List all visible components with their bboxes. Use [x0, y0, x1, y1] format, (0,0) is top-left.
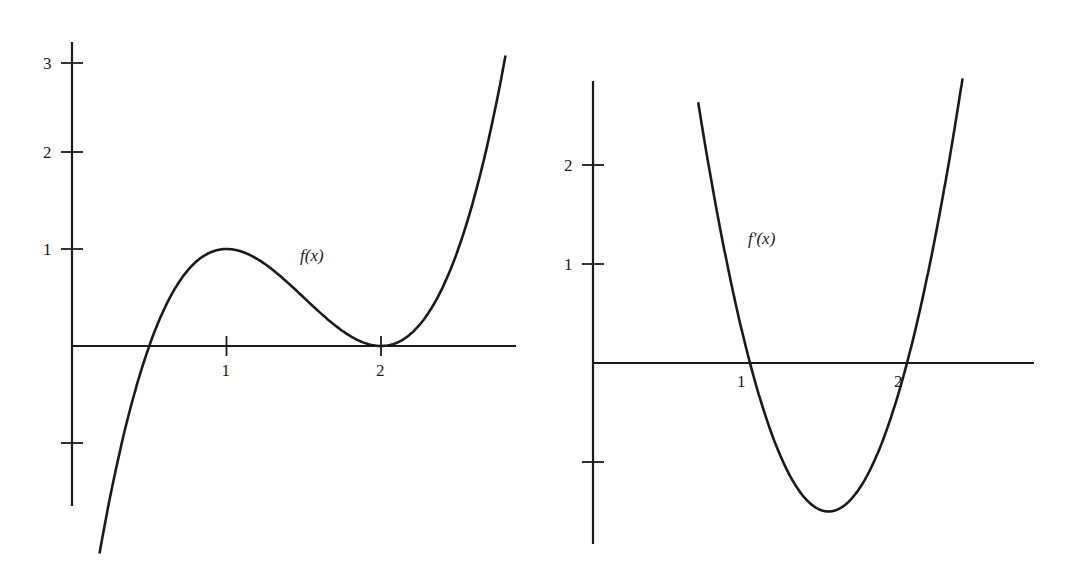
y-tick-label: 3 [43, 54, 52, 73]
y-tick-label: 2 [43, 143, 52, 162]
y-tick-label: 1 [43, 240, 52, 259]
y-ticks: 321 [43, 54, 83, 443]
figure: 321 12 f(x) 21 12 f′(x) [0, 0, 1081, 567]
x-ticks: 12 [737, 372, 903, 391]
curve-fprime [698, 78, 962, 511]
curve-f [100, 55, 506, 553]
x-tick-label: 2 [376, 361, 385, 380]
y-tick-label: 2 [564, 156, 573, 175]
x-tick-label: 1 [222, 361, 231, 380]
curve-label-fprime: f′(x) [748, 229, 776, 248]
curve-label-f: f(x) [300, 246, 324, 265]
x-tick-label: 1 [737, 372, 746, 391]
plot-f: 321 12 f(x) [43, 42, 516, 553]
y-ticks: 21 [564, 156, 604, 462]
x-ticks: 12 [222, 336, 385, 380]
y-tick-label: 1 [564, 255, 573, 274]
plot-fprime: 21 12 f′(x) [564, 78, 1034, 544]
